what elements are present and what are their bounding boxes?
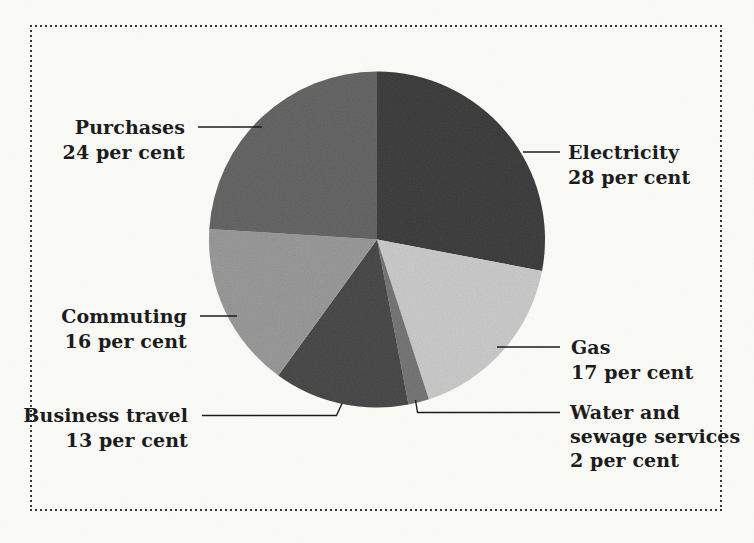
slice-name-line2: sewage services (570, 424, 740, 448)
slice-value: 28 per cent (568, 165, 690, 190)
slice-value: 24 per cent (63, 140, 185, 165)
slice-value: 13 per cent (23, 428, 188, 453)
label-purchases: Purchases 24 per cent (63, 115, 185, 165)
slice-value: 16 per cent (61, 329, 187, 354)
label-gas: Gas 17 per cent (571, 335, 693, 385)
label-water: Water and sewage services 2 per cent (570, 400, 740, 472)
label-electricity: Electricity 28 per cent (568, 140, 690, 190)
figure-page: Purchases 24 per cent Electricity 28 per… (0, 0, 754, 543)
slice-name: Water and (570, 400, 740, 424)
slice-name: Business travel (23, 403, 188, 428)
slice-name: Commuting (61, 304, 187, 329)
label-commuting: Commuting 16 per cent (61, 304, 187, 354)
slice-name: Electricity (568, 140, 690, 165)
slice-value: 17 per cent (571, 360, 693, 385)
slice-name: Purchases (63, 115, 185, 140)
slice-name: Gas (571, 335, 693, 360)
label-business-travel: Business travel 13 per cent (23, 403, 188, 453)
slice-value: 2 per cent (570, 448, 740, 472)
